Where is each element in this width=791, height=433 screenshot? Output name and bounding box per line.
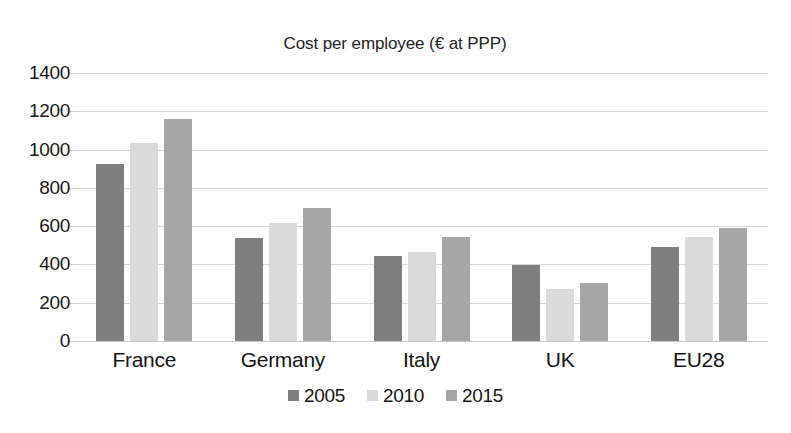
x-axis-label-germany: Germany [214, 348, 353, 372]
bar-italy-2015[interactable] [442, 237, 470, 341]
y-axis-tick-label: 600 [10, 216, 70, 235]
bar-eu28-2010[interactable] [685, 237, 713, 341]
legend-swatch-icon [446, 390, 457, 401]
plot-area [75, 73, 768, 341]
bar-uk-2005[interactable] [512, 265, 540, 341]
legend-label: 2015 [462, 386, 503, 405]
legend-swatch-icon [288, 390, 299, 401]
bar-italy-2005[interactable] [374, 256, 402, 341]
x-axis-label-uk: UK [491, 348, 630, 372]
legend-swatch-icon [367, 390, 378, 401]
bar-group-germany [235, 73, 331, 341]
bar-uk-2015[interactable] [580, 283, 608, 341]
bar-france-2010[interactable] [130, 143, 158, 341]
legend-label: 2010 [383, 386, 424, 405]
y-axis-tick-label: 200 [10, 293, 70, 312]
legend-item-2015[interactable]: 2015 [446, 386, 503, 405]
bar-germany-2005[interactable] [235, 238, 263, 341]
y-axis-tick-label: 1200 [10, 101, 70, 120]
bar-group-italy [374, 73, 470, 341]
bar-group-france [96, 73, 192, 341]
bar-france-2015[interactable] [164, 119, 192, 341]
bar-eu28-2015[interactable] [719, 228, 747, 341]
y-axis-tick-label: 800 [10, 178, 70, 197]
chart-legend: 200520102015 [0, 386, 791, 405]
legend-item-2010[interactable]: 2010 [367, 386, 424, 405]
bar-group-uk [512, 73, 608, 341]
y-axis-tick-label: 1000 [10, 140, 70, 159]
bar-chart: Cost per employee (€ at PPP) 14001200100… [0, 0, 791, 433]
chart-title: Cost per employee (€ at PPP) [75, 34, 715, 54]
bar-germany-2010[interactable] [269, 223, 297, 341]
legend-item-2005[interactable]: 2005 [288, 386, 345, 405]
x-axis-label-eu28: EU28 [629, 348, 768, 372]
bar-germany-2015[interactable] [303, 208, 331, 341]
y-axis-tick-label: 1400 [10, 63, 70, 82]
bar-italy-2010[interactable] [408, 252, 436, 341]
bar-eu28-2005[interactable] [651, 247, 679, 341]
y-axis-tick-label: 400 [10, 254, 70, 273]
gridline [75, 341, 768, 342]
legend-label: 2005 [304, 386, 345, 405]
x-axis-label-italy: Italy [352, 348, 491, 372]
y-axis-tick-label: 0 [10, 331, 70, 350]
bar-uk-2010[interactable] [546, 289, 574, 341]
x-axis-label-france: France [75, 348, 214, 372]
bar-france-2005[interactable] [96, 164, 124, 341]
bar-group-eu28 [651, 73, 747, 341]
